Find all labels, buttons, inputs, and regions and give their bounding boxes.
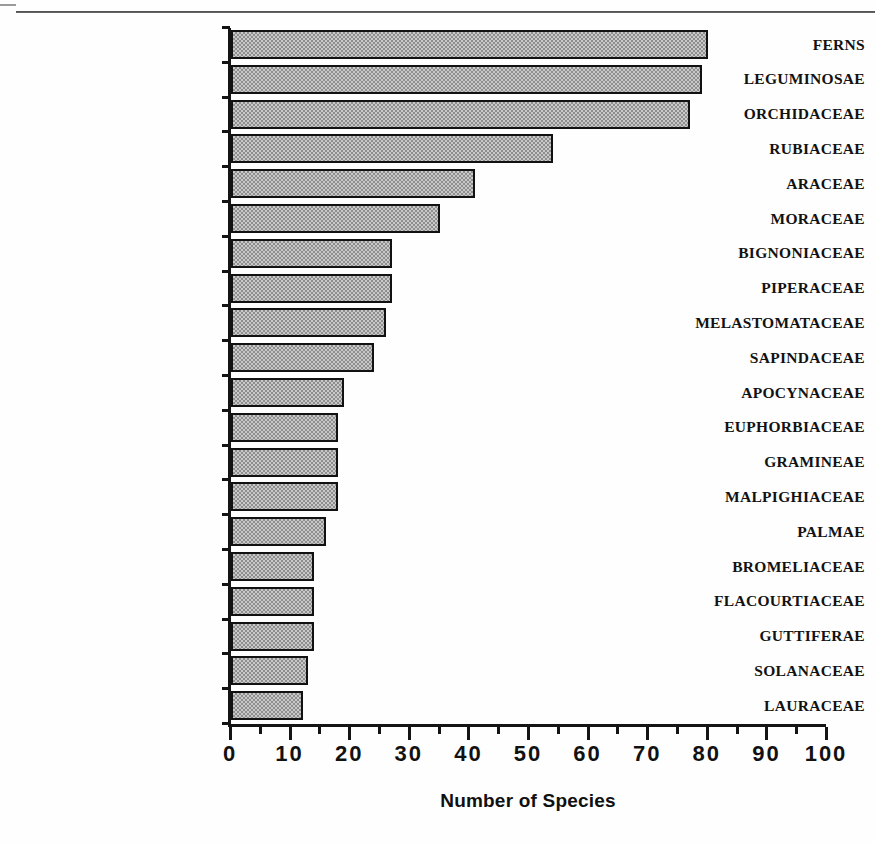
x-axis-tick-major [408, 727, 411, 740]
bar [231, 622, 314, 651]
category-label: LAURACEAE [653, 697, 875, 715]
x-axis-tick-minor [259, 727, 262, 734]
x-axis-tick-label: 40 [438, 741, 498, 767]
x-axis-tick-minor [676, 727, 679, 734]
bar-row: PIPERACEAE [0, 272, 875, 305]
bar-row: GRAMINEAE [0, 446, 875, 479]
x-axis-title: Number of Species [228, 790, 828, 812]
y-axis-tick [222, 652, 230, 655]
bar [231, 274, 392, 303]
bar-row: FLACOURTIACEAE [0, 585, 875, 618]
x-axis-tick-label: 50 [498, 741, 558, 767]
bar [231, 413, 338, 442]
x-axis-tick-major [706, 727, 709, 740]
bar [231, 169, 475, 198]
x-axis-tick-minor [438, 727, 441, 734]
bar-row: MALPIGHIACEAE [0, 480, 875, 513]
bar-row: SOLANACEAE [0, 654, 875, 687]
x-axis-tick-label: 90 [736, 741, 796, 767]
category-label: SAPINDACEAE [653, 349, 875, 367]
y-axis-tick [222, 61, 230, 64]
x-axis-tick-major [527, 727, 530, 740]
x-axis-tick-major [348, 727, 351, 740]
bar [231, 308, 386, 337]
bar-row: ARACEAE [0, 167, 875, 200]
bar-row: PALMAE [0, 515, 875, 548]
category-label: APOCYNACEAE [653, 384, 875, 402]
x-axis-tick-major [289, 727, 292, 740]
bar [231, 100, 690, 129]
category-label: MELASTOMATACEAE [653, 314, 875, 332]
y-axis-tick [222, 478, 230, 481]
y-axis-tick [222, 165, 230, 168]
bar [231, 343, 374, 372]
x-axis-tick-minor [616, 727, 619, 734]
category-label: BROMELIACEAE [653, 558, 875, 576]
x-axis-tick-minor [795, 727, 798, 734]
bar-row: LAURACEAE [0, 689, 875, 722]
bar-row: BROMELIACEAE [0, 550, 875, 583]
x-axis-tick-label: 10 [260, 741, 320, 767]
bar [231, 204, 440, 233]
bar [231, 552, 314, 581]
bar-row: BIGNONIACEAE [0, 237, 875, 270]
bar [231, 134, 553, 163]
y-axis-tick [222, 409, 230, 412]
x-axis-tick-major [587, 727, 590, 740]
x-axis-tick-minor [497, 727, 500, 734]
x-axis-tick-major [467, 727, 470, 740]
y-axis-tick [222, 235, 230, 238]
y-axis-tick [222, 374, 230, 377]
x-axis-tick-major [229, 727, 232, 740]
category-label: PIPERACEAE [653, 279, 875, 297]
x-axis-tick-minor [557, 727, 560, 734]
bar [231, 691, 303, 720]
bar-row: APOCYNACEAE [0, 376, 875, 409]
bar-row: LEGUMINOSAE [0, 63, 875, 96]
category-label: GUTTIFERAE [653, 627, 875, 645]
x-axis-tick-label: 0 [200, 741, 260, 767]
bar-row: MORACEAE [0, 202, 875, 235]
x-axis-tick-label: 80 [677, 741, 737, 767]
y-axis-tick [222, 618, 230, 621]
category-label: MORACEAE [653, 210, 875, 228]
category-label: GRAMINEAE [653, 453, 875, 471]
y-axis-tick [222, 339, 230, 342]
chart-figure: FERNSLEGUMINOSAEORCHIDACEAERUBIACEAEARAC… [0, 0, 875, 843]
x-axis-tick-major [765, 727, 768, 740]
bar-row: EUPHORBIACEAE [0, 411, 875, 444]
y-axis-tick [222, 270, 230, 273]
x-axis-tick-label: 60 [558, 741, 618, 767]
bar-row: ORCHIDACEAE [0, 98, 875, 131]
x-axis-tick-minor [378, 727, 381, 734]
category-label: FLACOURTIACEAE [653, 592, 875, 610]
category-label: SOLANACEAE [653, 662, 875, 680]
bar-row: MELASTOMATACEAE [0, 306, 875, 339]
category-label: RUBIACEAE [653, 140, 875, 158]
x-axis-tick-label: 20 [319, 741, 379, 767]
bar [231, 65, 702, 94]
y-axis-tick [222, 548, 230, 551]
category-label: BIGNONIACEAE [653, 244, 875, 262]
y-axis-tick [222, 130, 230, 133]
plot-area: FERNSLEGUMINOSAEORCHIDACEAERUBIACEAEARAC… [0, 0, 875, 843]
bar-row: SAPINDACEAE [0, 341, 875, 374]
bar-row: GUTTIFERAE [0, 620, 875, 653]
bar [231, 378, 344, 407]
y-axis-tick [222, 444, 230, 447]
y-axis-tick [222, 722, 230, 725]
x-axis-tick-label: 70 [617, 741, 677, 767]
y-axis-tick [222, 583, 230, 586]
category-label: PALMAE [653, 523, 875, 541]
bar-row: RUBIACEAE [0, 132, 875, 165]
bar [231, 656, 308, 685]
category-label: MALPIGHIACEAE [653, 488, 875, 506]
bar [231, 482, 338, 511]
y-axis-tick [222, 304, 230, 307]
bar-row: FERNS [0, 28, 875, 61]
x-axis-tick-major [825, 727, 828, 740]
category-label: EUPHORBIACEAE [653, 418, 875, 436]
y-axis-tick [222, 26, 230, 29]
x-axis-tick-major [646, 727, 649, 740]
y-axis-tick [222, 687, 230, 690]
